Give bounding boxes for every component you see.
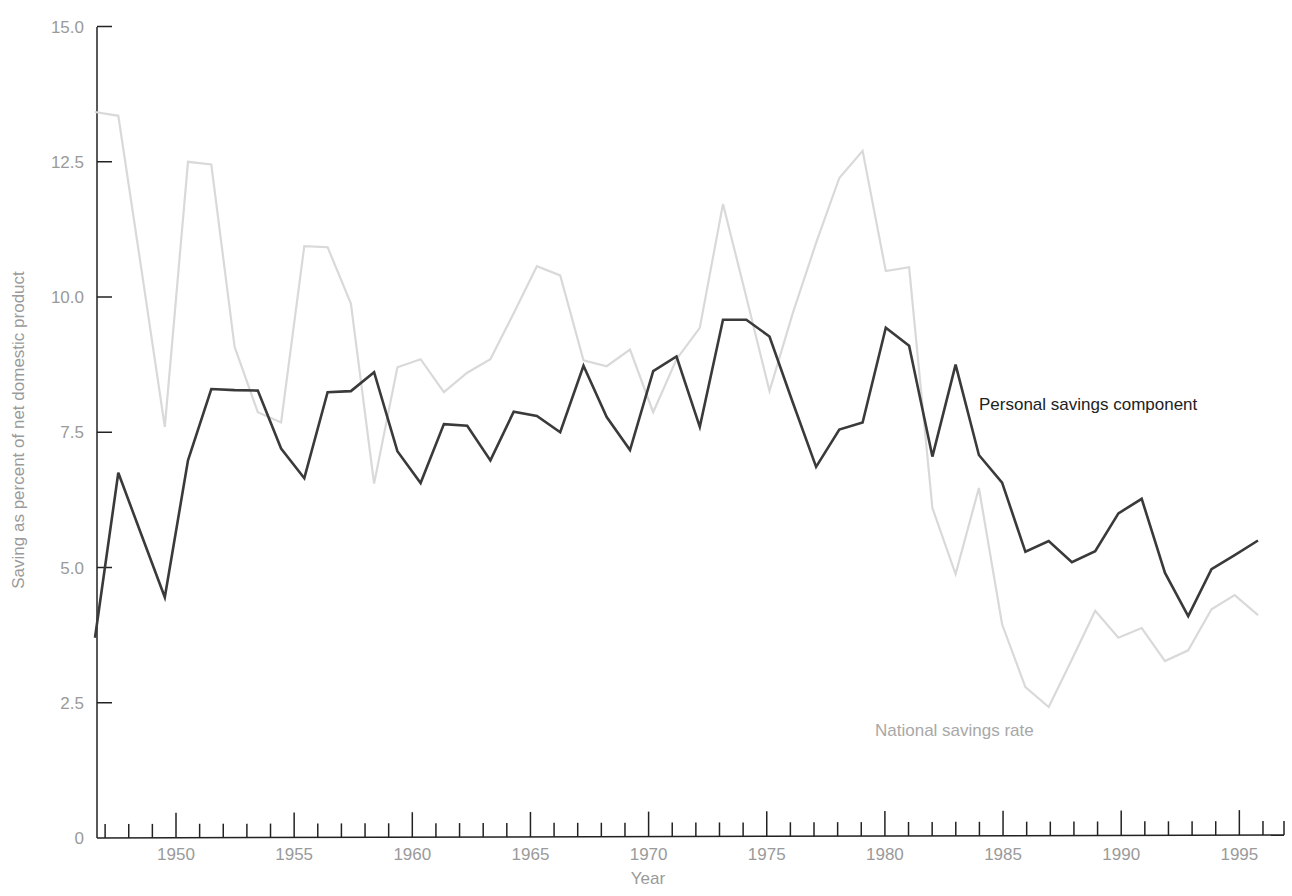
x-tick-label: 1960 — [393, 845, 431, 864]
x-tick-label: 1990 — [1102, 845, 1140, 864]
personal-savings-label: Personal savings component — [979, 395, 1198, 414]
x-tick-label: 1995 — [1220, 845, 1258, 864]
y-tick-label: 2.5 — [60, 694, 84, 713]
x-tick-label: 1955 — [275, 845, 313, 864]
x-tick-label: 1965 — [512, 845, 550, 864]
national-savings-label: National savings rate — [875, 721, 1034, 740]
x-axis: 1950195519601965197019751980198519901995 — [97, 810, 1284, 864]
x-tick-label: 1975 — [748, 845, 786, 864]
y-tick-label: 7.5 — [60, 423, 84, 442]
y-tick-label: 12.5 — [51, 153, 84, 172]
y-axis-title: Saving as percent of net domestic produc… — [9, 271, 28, 589]
x-tick-label: 1950 — [157, 845, 195, 864]
y-tick-label: 15.0 — [51, 18, 84, 37]
x-axis-title: Year — [631, 869, 666, 888]
line-chart: 02.55.07.510.012.515.0 19501955196019651… — [0, 0, 1292, 896]
x-tick-label: 1970 — [630, 845, 668, 864]
y-tick-label: 5.0 — [60, 559, 84, 578]
y-axis: 02.55.07.510.012.515.0 — [51, 18, 112, 849]
x-tick-label: 1985 — [984, 845, 1022, 864]
x-tick-label: 1980 — [866, 845, 904, 864]
personal-savings-line — [95, 320, 1258, 638]
y-tick-label: 10.0 — [51, 288, 84, 307]
y-tick-label: 0 — [75, 829, 84, 848]
